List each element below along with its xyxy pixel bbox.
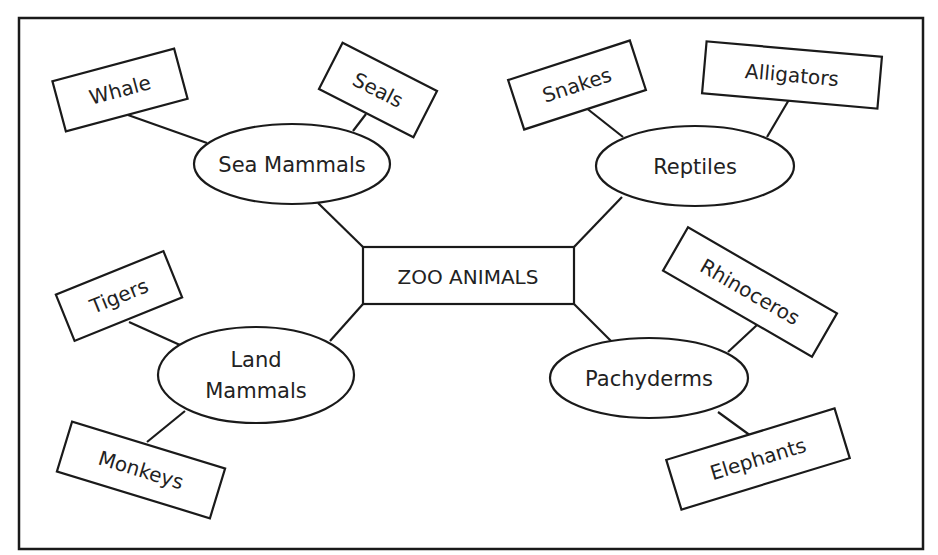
leaf-whale: Whale xyxy=(52,49,187,132)
edge-center-land-mammals xyxy=(330,304,363,341)
leaf-elephants: Elephants xyxy=(666,408,850,509)
edge-pachyderms-elephants xyxy=(718,412,751,436)
edge-reptiles-snakes xyxy=(585,107,623,137)
category-land-mammals: Land Mammals xyxy=(158,327,354,423)
category-label-line-1: Land xyxy=(230,348,281,372)
edge-land-mammals-tigers xyxy=(129,322,180,345)
category-label: Pachyderms xyxy=(585,367,713,391)
edge-sea-mammals-whale xyxy=(128,115,207,143)
edge-center-reptiles xyxy=(574,197,622,247)
edge-sea-mammals-seals xyxy=(353,114,366,131)
category-label-line-2: Mammals xyxy=(205,379,307,403)
leaf-alligators: Alligators xyxy=(702,41,882,108)
category-pachyderms: Pachyderms xyxy=(550,338,748,418)
leaf-seals: Seals xyxy=(319,43,437,137)
category-sea-mammals: Sea Mammals xyxy=(194,124,390,204)
edge-center-pachyderms xyxy=(574,304,612,342)
leaf-snakes: Snakes xyxy=(508,40,646,129)
center-label: ZOO ANIMALS xyxy=(398,265,539,289)
category-label: Reptiles xyxy=(653,155,737,179)
category-reptiles: Reptiles xyxy=(596,126,794,206)
leaf-monkeys: Monkeys xyxy=(57,422,225,519)
center-node: ZOO ANIMALS xyxy=(363,247,574,304)
zoo-animals-concept-map: ZOO ANIMALS Sea Mammals Whale Seals Rept… xyxy=(0,0,938,555)
edge-reptiles-alligators xyxy=(767,98,790,137)
leaf-tigers: Tigers xyxy=(56,251,182,341)
category-label: Sea Mammals xyxy=(218,153,365,177)
edge-pachyderms-rhinoceros xyxy=(728,325,757,352)
category-ellipse xyxy=(158,327,354,423)
leaf-rhinoceros: Rhinoceros xyxy=(663,227,837,356)
edge-land-mammals-monkeys xyxy=(147,411,185,442)
edge-center-sea-mammals xyxy=(318,203,363,247)
